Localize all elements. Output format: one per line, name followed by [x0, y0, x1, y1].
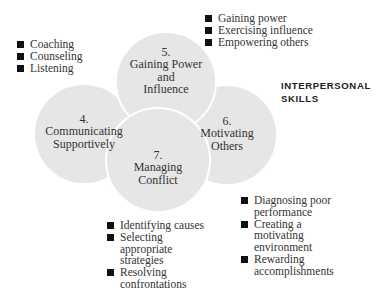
list-item-text: Gaining power — [218, 12, 287, 24]
square-bullet-icon — [241, 197, 248, 204]
circle-title-line: Conflict — [134, 174, 183, 186]
square-bullet-icon — [205, 15, 212, 22]
circle-title-line: Managing — [134, 161, 183, 173]
square-bullet-icon — [241, 256, 248, 263]
list-item-text: Diagnosing poor performance — [254, 194, 331, 218]
circle-title-line: Motivating — [200, 127, 253, 139]
list-item-text: Listening — [30, 62, 73, 74]
list-item-text: Coaching — [30, 38, 74, 50]
circle-label-communicating: 4. Communicating Supportively — [45, 113, 122, 150]
square-bullet-icon — [107, 234, 114, 241]
bullet-list-managing-conflict: Identifying causes Selecting appropriate… — [107, 220, 217, 290]
list-item: Rewarding accomplishments — [241, 254, 353, 278]
list-item-text: Resolving confrontations — [120, 266, 186, 290]
circle-title-line: Influence — [130, 83, 202, 95]
list-item-text: Rewarding accomplishments — [254, 253, 334, 277]
diagram-heading: INTERPERSONAL SKILLS — [281, 80, 371, 105]
list-item-text: Selecting appropriate strategies — [120, 231, 172, 267]
bullet-list-motivating: Diagnosing poor performance Creating a m… — [241, 195, 353, 278]
heading-line: SKILLS — [281, 93, 371, 106]
circle-label-motivating: 6. Motivating Others — [200, 115, 253, 152]
list-item-text: Counseling — [30, 50, 82, 62]
circle-title-line: Supportively — [45, 138, 122, 150]
circle-title-line: Others — [200, 140, 253, 152]
interpersonal-skills-diagram: 4. Communicating Supportively 5. Gaining… — [0, 0, 383, 290]
square-bullet-icon — [205, 27, 212, 34]
list-item: Diagnosing poor performance — [241, 195, 353, 219]
list-item-text: Exercising influence — [218, 24, 313, 36]
circle-label-gaining-power: 5. Gaining Power and Influence — [130, 46, 202, 96]
square-bullet-icon — [107, 269, 114, 276]
heading-line: INTERPERSONAL — [281, 80, 371, 93]
bullet-list-gaining-power: Gaining power Exercising influence Empow… — [205, 13, 313, 48]
square-bullet-icon — [17, 65, 24, 72]
square-bullet-icon — [17, 53, 24, 60]
list-item-text: Identifying causes — [120, 219, 204, 231]
list-item: Empowering others — [205, 37, 313, 49]
list-item: Selecting appropriate strategies — [107, 232, 217, 267]
list-item: Resolving confrontations — [107, 267, 217, 290]
circle-title-line: Communicating — [45, 125, 122, 137]
square-bullet-icon — [17, 41, 24, 48]
square-bullet-icon — [107, 222, 114, 229]
list-item: Listening — [17, 63, 82, 75]
bullet-list-communicating: Coaching Counseling Listening — [17, 39, 82, 74]
square-bullet-icon — [241, 221, 248, 228]
list-item: Creating a motivating environment — [241, 219, 353, 254]
circle-title-line: Gaining Power — [130, 58, 202, 70]
square-bullet-icon — [205, 39, 212, 46]
list-item-text: Empowering others — [218, 36, 308, 48]
circle-label-managing-conflict: 7. Managing Conflict — [134, 149, 183, 186]
list-item-text: Creating a motivating environment — [254, 218, 312, 254]
